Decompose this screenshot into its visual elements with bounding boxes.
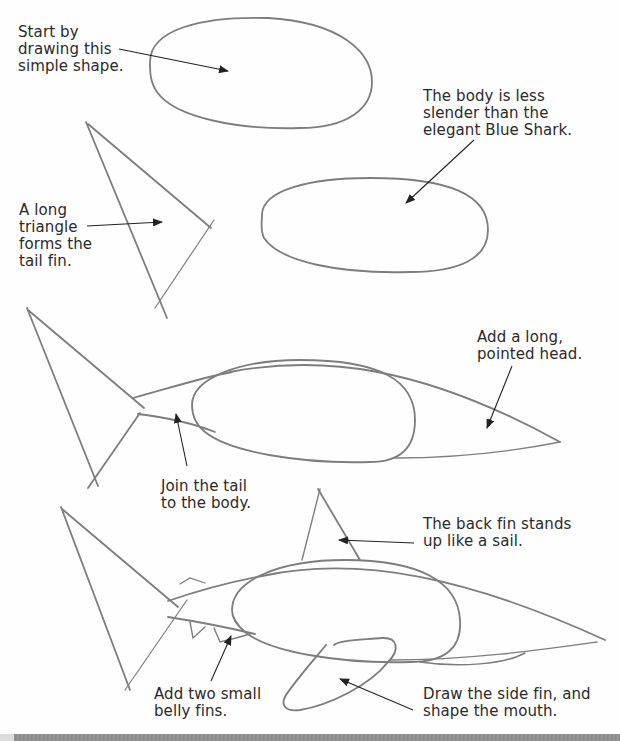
tutorial-page: Start by drawing this simple shape. The … (0, 0, 620, 741)
step2-tail-arrow (87, 222, 162, 226)
caption-join-tail: Join the tail to the body. (161, 478, 251, 512)
step1-oval (150, 18, 372, 128)
caption-side-fin-mouth: Draw the side fin, and shape the mouth. (423, 686, 591, 720)
caption-tail-triangle: A long triangle forms the tail fin. (19, 202, 92, 270)
caption-belly-fins: Add two small belly fins. (154, 686, 261, 720)
step4-sidefin-arrow (340, 679, 413, 710)
step2-tail-triangle (86, 122, 214, 318)
caption-body-less-slender: The body is less slender than the elegan… (423, 88, 572, 139)
step3-head-arrow (487, 366, 512, 428)
page-bottom-edge (0, 734, 620, 741)
caption-pointed-head: Add a long, pointed head. (477, 329, 582, 363)
caption-back-fin: The back fin stands up like a sail. (423, 516, 571, 550)
step4-bellyfin-arrow (211, 636, 231, 681)
step2-body-oval (262, 178, 489, 272)
step1-arrow (119, 49, 228, 71)
caption-step1-start: Start by drawing this simple shape. (18, 24, 124, 75)
